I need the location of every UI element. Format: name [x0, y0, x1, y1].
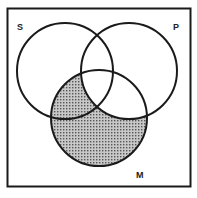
label-s: S [17, 22, 23, 32]
label-p: P [173, 22, 179, 32]
label-m: M [136, 170, 144, 180]
venn-diagram: S P M [0, 0, 197, 198]
